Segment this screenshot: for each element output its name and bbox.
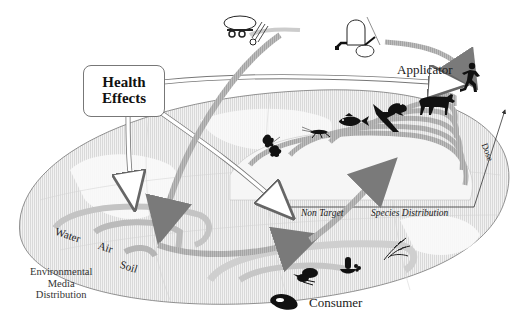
tank-sprayer-trailer-icon	[224, 16, 268, 45]
env-label-1: Environmental	[30, 266, 92, 278]
environmental-media-distribution-label: Environmental Media Distribution	[30, 266, 92, 301]
health-effects-label-1: Health	[102, 75, 145, 91]
health-effects-box: Health Effects	[83, 65, 165, 117]
species-distribution-label: Species Distribution	[371, 209, 448, 219]
backpack-sprayer-icon	[335, 17, 380, 57]
consumer-label: Consumer	[309, 296, 362, 309]
health-effects-label-2: Effects	[102, 91, 146, 107]
env-label-3: Distribution	[30, 289, 92, 301]
applicator-label: Applicator	[397, 63, 453, 76]
non-target-label: Non Target	[301, 209, 343, 219]
env-label-2: Media	[30, 278, 92, 290]
